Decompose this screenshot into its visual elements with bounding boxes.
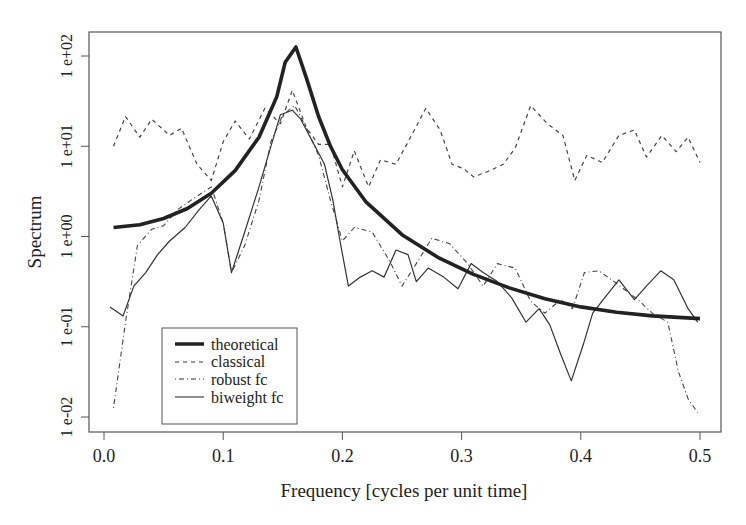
x-tick-label: 0.0 — [93, 446, 116, 466]
x-tick-label: 0.3 — [450, 446, 473, 466]
legend-label-theoretical: theoretical — [211, 336, 279, 353]
x-tick-label: 0.4 — [570, 446, 593, 466]
x-tick-label: 0.2 — [331, 446, 354, 466]
spectrum-chart: 0.00.10.20.30.40.5 1 e+021 e+011 e+001 e… — [0, 0, 746, 525]
legend-label-classical: classical — [211, 353, 266, 370]
y-tick-label: 1 e-01 — [58, 307, 75, 347]
legend: theoretical classical robust fc biweight… — [162, 328, 297, 424]
series-theoretical-line — [114, 47, 701, 319]
y-tick-label: 1 e+02 — [58, 34, 75, 78]
x-tick-label: 0.1 — [212, 446, 235, 466]
y-axis-label: Spectrum — [24, 195, 45, 268]
y-tick-label: 1 e+00 — [58, 214, 75, 258]
y-axis-ticks: 1 e+021 e+011 e+001 e-011 e-02 — [58, 34, 89, 437]
x-tick-label: 0.5 — [689, 446, 712, 466]
y-tick-label: 1 e+01 — [58, 124, 75, 168]
x-axis-label: Frequency [cycles per unit time] — [281, 480, 528, 501]
series-classical-line — [114, 90, 701, 187]
y-tick-label: 1 e-02 — [58, 397, 75, 437]
legend-label-robust: robust fc — [211, 371, 267, 388]
x-axis-ticks: 0.00.10.20.30.40.5 — [93, 432, 712, 466]
legend-label-biweight: biweight fc — [211, 389, 283, 407]
